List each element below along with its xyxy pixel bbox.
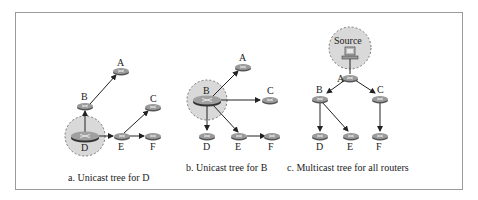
label-b: B — [81, 91, 88, 102]
router-f-icon — [264, 133, 280, 141]
multicast-diagram: A B C D E F a. Unicast tree for D A B C … — [0, 0, 478, 200]
label-a: A — [117, 57, 125, 68]
label-d: D — [203, 141, 210, 152]
router-b-icon — [77, 103, 93, 111]
router-b-icon — [193, 96, 221, 107]
label-e: E — [235, 141, 241, 152]
router-d-icon — [312, 133, 328, 141]
label-d: D — [81, 142, 88, 153]
router-c-icon — [372, 96, 388, 104]
label-a: A — [239, 52, 247, 63]
label-f: F — [150, 141, 156, 152]
router-f-icon — [372, 133, 388, 141]
router-a-icon — [113, 68, 129, 76]
label-b: B — [316, 84, 323, 95]
router-c-icon — [145, 104, 161, 112]
panel-a-unicast-tree-d: A B C D E F a. Unicast tree for D — [65, 57, 161, 183]
router-d-icon — [71, 132, 99, 143]
label-c: C — [267, 85, 274, 96]
router-a-icon — [342, 75, 358, 83]
router-c-icon — [262, 97, 278, 105]
router-e-icon — [343, 133, 359, 141]
caption-c: c. Multicast tree for all routers — [287, 162, 409, 173]
router-b-icon — [312, 96, 328, 104]
label-c: C — [150, 93, 157, 104]
router-a-icon — [235, 64, 251, 72]
label-d: D — [316, 141, 323, 152]
label-f: F — [268, 141, 274, 152]
label-e: E — [118, 141, 124, 152]
router-e-icon — [114, 133, 130, 141]
panel-c-multicast-tree: Source A B C D E F c. Multicast tree for… — [287, 27, 409, 173]
label-c: C — [377, 84, 384, 95]
router-f-icon — [145, 133, 161, 141]
caption-a: a. Unicast tree for D — [68, 172, 149, 183]
label-b: B — [203, 85, 210, 96]
panel-b-unicast-tree-b: A B C D E F b. Unicast tree for B — [186, 52, 280, 173]
source-label: Source — [334, 35, 362, 46]
label-e: E — [347, 141, 353, 152]
label-f: F — [376, 141, 382, 152]
router-d-icon — [199, 133, 215, 141]
label-a: A — [337, 73, 345, 84]
router-e-icon — [231, 133, 247, 141]
caption-b: b. Unicast tree for B — [186, 162, 268, 173]
